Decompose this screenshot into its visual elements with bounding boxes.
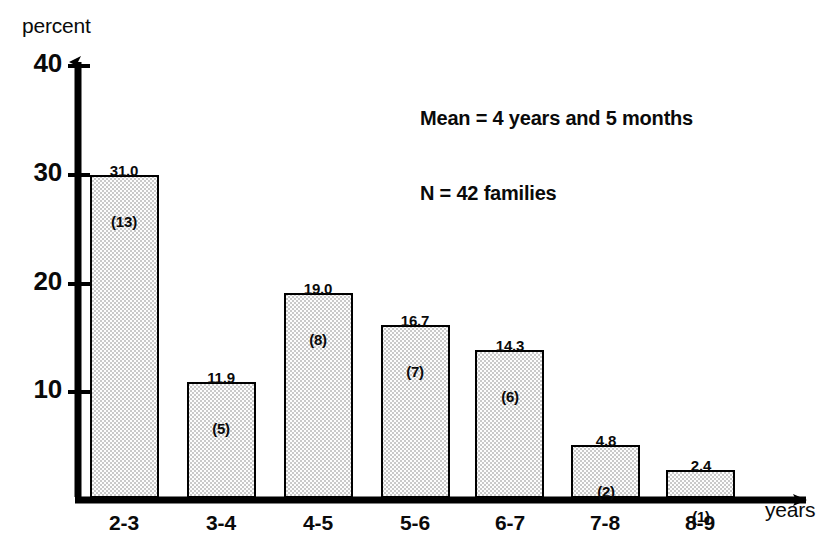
x-tick-label-7-8: 7-8 xyxy=(557,511,653,535)
x-tick-label-2-3: 2-3 xyxy=(76,511,172,535)
bar-percent-7-8: 4.8 xyxy=(551,432,661,449)
bar-percent-6-7: 14.3 xyxy=(455,337,565,354)
bar-count-5-6: (7) xyxy=(360,363,470,380)
bar-count-4-5: (8) xyxy=(263,331,373,348)
y-tick-label-30: 30 xyxy=(10,157,62,188)
bar-percent-3-4: 11.9 xyxy=(166,369,276,386)
bar-count-2-3: (13) xyxy=(69,213,179,230)
bar-value-label-3-4: 11.9 (5) xyxy=(166,335,276,471)
chart-annotation: Mean = 4 years and 5 months N = 42 famil… xyxy=(420,56,693,256)
annotation-n: N = 42 families xyxy=(420,181,693,206)
y-tick-label-10: 10 xyxy=(10,374,62,405)
y-axis-title: percent xyxy=(22,14,91,38)
bar-count-7-8: (2) xyxy=(551,483,661,500)
x-tick-label-6-7: 6-7 xyxy=(462,511,558,535)
bar-percent-8-9: 2.4 xyxy=(646,457,756,474)
bar-value-label-8-9: 2.4 (1) xyxy=(646,423,756,559)
bar-chart-figure: percent years 40 30 20 10 31.0 (13) 11.9… xyxy=(0,0,840,559)
x-tick-label-3-4: 3-4 xyxy=(173,511,269,535)
x-tick-label-8-9: 8-9 xyxy=(652,511,748,535)
bar-value-label-5-6: 16.7 (7) xyxy=(360,278,470,414)
x-axis-title: years xyxy=(765,498,815,522)
bar-count-3-4: (5) xyxy=(166,420,276,437)
bar-percent-2-3: 31.0 xyxy=(69,162,179,179)
y-tick-label-20: 20 xyxy=(10,266,62,297)
x-tick-label-4-5: 4-5 xyxy=(270,511,366,535)
annotation-mean: Mean = 4 years and 5 months xyxy=(420,106,693,131)
y-tick-label-40: 40 xyxy=(10,48,62,79)
bar-count-6-7: (6) xyxy=(455,388,565,405)
bar-percent-5-6: 16.7 xyxy=(360,312,470,329)
bar-percent-4-5: 19.0 xyxy=(263,280,373,297)
x-tick-label-5-6: 5-6 xyxy=(367,511,463,535)
bar-value-label-2-3: 31.0 (13) xyxy=(69,128,179,264)
bar-value-label-6-7: 14.3 (6) xyxy=(455,303,565,439)
bar-value-label-4-5: 19.0 (8) xyxy=(263,246,373,382)
